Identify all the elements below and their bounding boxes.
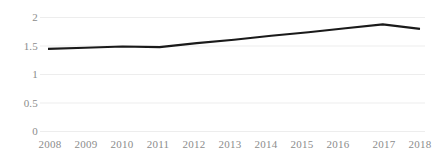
x-tick-label-2014: 2014 xyxy=(255,139,278,150)
x-tick-label-2009: 2009 xyxy=(75,139,98,150)
x-tick-label-2016: 2016 xyxy=(327,139,350,150)
x-tick-label-2008: 2008 xyxy=(39,139,62,150)
x-tick-label-2010: 2010 xyxy=(111,139,134,150)
x-tick-label-2015: 2015 xyxy=(291,139,314,150)
line-chart: 2 1.5 1 0.5 0 2008 2009 2010 2011 2012 2… xyxy=(0,0,442,158)
x-axis-ticks: 2008 2009 2010 2011 2012 2013 2014 2015 … xyxy=(0,0,442,158)
x-tick-label-2012: 2012 xyxy=(183,139,206,150)
x-tick-label-2011: 2011 xyxy=(147,139,169,150)
x-tick-label-2013: 2013 xyxy=(219,139,242,150)
x-tick-label-2018: 2018 xyxy=(409,139,432,150)
x-tick-label-2017: 2017 xyxy=(373,139,396,150)
